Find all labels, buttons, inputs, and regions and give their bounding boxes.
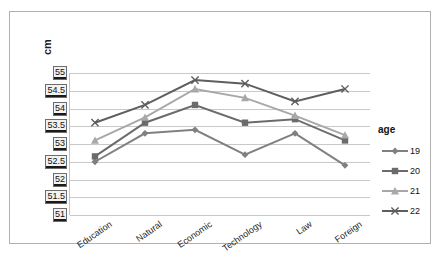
data-point-cross — [391, 207, 398, 214]
data-point-triangle — [141, 113, 149, 120]
x-tick-label: Natural — [134, 219, 164, 244]
y-tick-label: 55 — [32, 67, 66, 79]
y-tick-label: 54 — [32, 103, 66, 115]
data-point-square — [92, 153, 98, 159]
legend: age 19202122 — [376, 124, 441, 221]
data-point-square — [242, 120, 248, 126]
legend-title: age — [378, 124, 441, 135]
legend-label: 19 — [410, 146, 420, 156]
legend-swatch-cross-icon — [382, 205, 408, 217]
chart-frame: cm 5554.55453.55352.55251.551 EducationN… — [9, 11, 431, 244]
x-tick-label: Economic — [176, 219, 214, 250]
data-point-square — [192, 102, 198, 108]
y-tick-label: 54.5 — [32, 85, 66, 97]
legend-swatch-triangle-icon — [382, 185, 408, 197]
y-tick-label: 52 — [32, 174, 66, 186]
x-axis-tick-labels: EducationNaturalEconomicTechnologyLawFor… — [69, 217, 369, 265]
y-tick-label: 53.5 — [32, 120, 66, 132]
data-point-diamond — [192, 126, 199, 133]
legend-label: 20 — [410, 166, 420, 176]
plot-area — [69, 73, 370, 215]
legend-item-20[interactable]: 20 — [382, 161, 441, 181]
y-axis-tick-labels: 5554.55453.55352.55251.551 — [30, 73, 66, 215]
y-tick-label: 52.5 — [32, 156, 66, 168]
legend-label: 22 — [410, 206, 420, 216]
legend-label: 21 — [410, 186, 420, 196]
series-line — [95, 80, 345, 123]
legend-swatch-square-icon — [382, 165, 408, 177]
data-point-diamond — [392, 148, 399, 155]
data-point-square — [392, 168, 398, 174]
series-line — [95, 105, 345, 156]
legend-items: 19202122 — [376, 141, 441, 221]
y-tick-label: 51 — [32, 209, 66, 221]
y-tick-label: 53 — [32, 138, 66, 150]
legend-item-19[interactable]: 19 — [382, 141, 441, 161]
x-tick-label: Law — [294, 219, 313, 237]
series-line — [95, 130, 345, 166]
x-tick-label: Foreign — [333, 219, 364, 245]
legend-item-22[interactable]: 22 — [382, 201, 441, 221]
gridline — [70, 215, 370, 216]
legend-swatch-diamond-icon — [382, 145, 408, 157]
series-22 — [91, 77, 348, 127]
legend-item-21[interactable]: 21 — [382, 181, 441, 201]
y-tick-label: 51.5 — [32, 191, 66, 203]
data-point-diamond — [242, 151, 249, 158]
x-tick-label: Technology — [221, 219, 264, 253]
y-axis-unit-label: cm — [41, 34, 63, 60]
x-tick-label: Education — [75, 219, 114, 250]
data-point-triangle — [391, 187, 399, 194]
series-lines — [70, 73, 370, 215]
